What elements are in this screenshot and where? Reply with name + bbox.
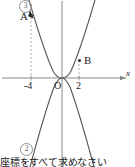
origin-label: O [54, 81, 61, 91]
x-tick-label-minus4: -4 [24, 81, 32, 91]
math-figure: A B -4 2 O x 3 2 [0, 0, 135, 167]
point-b-dot [78, 59, 81, 62]
graph-canvas [0, 0, 135, 167]
x-tick-label-2: 2 [76, 81, 81, 91]
caption-text: 座標をすべて求めなさい [0, 154, 135, 167]
curve-label-3: 3 [19, 0, 32, 13]
point-a-dot [30, 14, 33, 17]
point-b-label: B [84, 55, 91, 66]
x-axis-label: x [126, 69, 130, 78]
